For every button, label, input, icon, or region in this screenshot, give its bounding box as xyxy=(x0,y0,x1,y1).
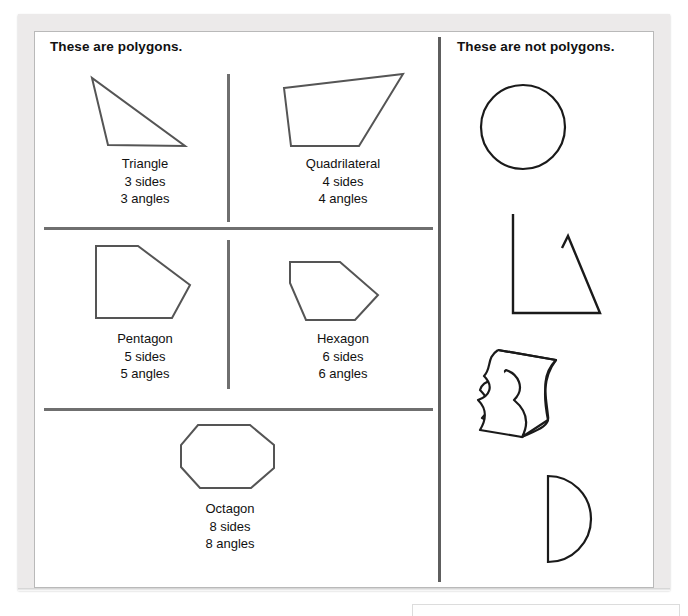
polygons-heading: These are polygons. xyxy=(50,39,182,54)
scan-artifact-bottom-left xyxy=(4,598,30,612)
caption-pentagon-sides: 5 sides xyxy=(70,348,220,366)
caption-triangle-angles: 3 angles xyxy=(70,190,220,208)
row-divider-2 xyxy=(44,408,433,411)
pentagon-outline xyxy=(96,246,190,318)
caption-quadrilateral-sides: 4 sides xyxy=(258,173,428,191)
caption-quadrilateral: Quadrilateral 4 sides 4 angles xyxy=(258,155,428,208)
caption-octagon-sides: 8 sides xyxy=(155,518,305,536)
shape-wavy-figure xyxy=(468,338,583,448)
half-disc-outline xyxy=(548,476,591,562)
column-divider-1 xyxy=(227,74,230,222)
caption-triangle-name: Triangle xyxy=(70,155,220,173)
caption-hexagon: Hexagon 6 sides 6 angles xyxy=(258,330,428,383)
shape-half-disc xyxy=(540,470,610,575)
non-polygons-heading: These are not polygons. xyxy=(457,39,615,54)
page-mat-shadow xyxy=(18,588,670,591)
shape-hexagon xyxy=(282,254,387,329)
shape-triangle xyxy=(70,70,200,155)
open-triangle-outline xyxy=(513,214,600,313)
shape-open-triangle xyxy=(505,208,610,323)
octagon-outline xyxy=(181,425,274,488)
main-section-divider xyxy=(438,37,441,582)
column-divider-2 xyxy=(227,240,230,389)
caption-octagon-name: Octagon xyxy=(155,500,305,518)
caption-hexagon-sides: 6 sides xyxy=(258,348,428,366)
shape-octagon xyxy=(175,420,285,495)
caption-hexagon-angles: 6 angles xyxy=(258,365,428,383)
caption-pentagon-angles: 5 angles xyxy=(70,365,220,383)
caption-octagon: Octagon 8 sides 8 angles xyxy=(155,500,305,553)
scan-artifact-bottom-right xyxy=(412,604,680,616)
caption-hexagon-name: Hexagon xyxy=(258,330,428,348)
caption-quadrilateral-angles: 4 angles xyxy=(258,190,428,208)
shape-circle xyxy=(476,80,571,175)
caption-pentagon-name: Pentagon xyxy=(70,330,220,348)
caption-triangle: Triangle 3 sides 3 angles xyxy=(70,155,220,208)
row-divider-1 xyxy=(44,227,433,230)
quadrilateral-outline xyxy=(284,74,403,146)
hexagon-outline xyxy=(290,262,378,320)
caption-triangle-sides: 3 sides xyxy=(70,173,220,191)
triangle-outline xyxy=(92,78,185,146)
shape-pentagon xyxy=(88,240,203,330)
caption-octagon-angles: 8 angles xyxy=(155,535,305,553)
shape-quadrilateral xyxy=(270,66,415,156)
caption-quadrilateral-name: Quadrilateral xyxy=(258,155,428,173)
circle-outline xyxy=(481,85,565,169)
caption-pentagon: Pentagon 5 sides 5 angles xyxy=(70,330,220,383)
